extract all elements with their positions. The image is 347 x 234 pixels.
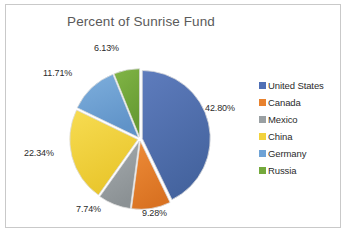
legend-label-china: China: [268, 131, 292, 142]
legend-swatch-germany: [259, 150, 266, 157]
chart-frame: Percent of Sunrise Fund: [5, 4, 341, 228]
legend-swatch-canada: [259, 99, 266, 106]
legend-item-united-states[interactable]: United States: [259, 77, 347, 94]
data-label-russia: 6.13%: [94, 43, 119, 53]
legend-swatch-united-states: [259, 82, 266, 89]
legend-swatch-russia: [259, 167, 266, 174]
data-label-germany: 11.71%: [43, 68, 72, 78]
legend-item-china[interactable]: China: [259, 128, 347, 145]
legend-item-germany[interactable]: Germany: [259, 145, 347, 162]
legend-label-united-states: United States: [268, 80, 324, 91]
legend-swatch-mexico: [259, 116, 266, 123]
legend-item-mexico[interactable]: Mexico: [259, 111, 347, 128]
legend-label-germany: Germany: [268, 148, 306, 159]
data-label-china: 22.34%: [24, 148, 54, 158]
legend-label-russia: Russia: [268, 165, 296, 176]
data-label-canada: 9.28%: [142, 208, 167, 218]
data-label-mexico: 7.74%: [76, 204, 101, 214]
pie-chart-svg: [58, 57, 222, 221]
legend-label-canada: Canada: [268, 97, 301, 108]
chart-legend: United States Canada Mexico China German…: [259, 77, 347, 179]
data-label-united-states: 42.80%: [205, 103, 235, 113]
legend-swatch-china: [259, 133, 266, 140]
legend-item-russia[interactable]: Russia: [259, 162, 347, 179]
legend-label-mexico: Mexico: [268, 114, 298, 125]
legend-item-canada[interactable]: Canada: [259, 94, 347, 111]
